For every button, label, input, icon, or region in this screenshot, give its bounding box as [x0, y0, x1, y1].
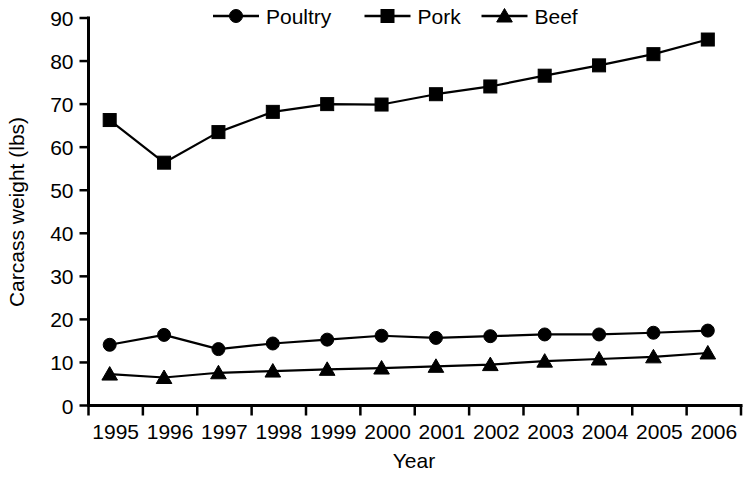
- y-tick-label: 70: [50, 93, 73, 116]
- circle-marker-icon: [375, 329, 388, 342]
- chart-background: [0, 0, 746, 480]
- y-tick-label: 30: [50, 265, 73, 288]
- x-tick-label: 2002: [473, 420, 520, 443]
- y-tick-label: 20: [50, 308, 73, 331]
- square-marker-icon: [375, 98, 388, 111]
- legend-label: Pork: [418, 5, 462, 28]
- x-tick-label: 2001: [419, 420, 466, 443]
- circle-marker-icon: [158, 328, 171, 341]
- circle-marker-icon: [701, 324, 714, 337]
- circle-marker-icon: [212, 343, 225, 356]
- circle-marker-icon: [230, 10, 243, 23]
- square-marker-icon: [266, 105, 279, 118]
- circle-marker-icon: [266, 337, 279, 350]
- x-tick-label: 1995: [92, 420, 139, 443]
- line-chart: PoultryPorkBeef 0102030405060708090 1995…: [0, 0, 746, 480]
- square-marker-icon: [647, 48, 660, 61]
- circle-marker-icon: [321, 333, 334, 346]
- x-axis-title: Year: [393, 449, 435, 472]
- chart-figure: PoultryPorkBeef 0102030405060708090 1995…: [0, 0, 746, 480]
- square-marker-icon: [158, 156, 171, 169]
- square-marker-icon: [538, 69, 551, 82]
- square-marker-icon: [593, 59, 606, 72]
- legend-label: Beef: [535, 5, 578, 28]
- x-tick-label: 2006: [690, 420, 737, 443]
- y-tick-label: 80: [50, 50, 73, 73]
- square-marker-icon: [103, 114, 116, 127]
- square-marker-icon: [701, 33, 714, 46]
- square-marker-icon: [381, 10, 394, 23]
- x-tick-label: 1999: [310, 420, 357, 443]
- square-marker-icon: [429, 88, 442, 101]
- y-axis-title: Carcass weight (lbs): [5, 117, 28, 307]
- circle-marker-icon: [429, 331, 442, 344]
- square-marker-icon: [212, 126, 225, 139]
- square-marker-icon: [484, 80, 497, 93]
- x-tick-label: 1997: [201, 420, 248, 443]
- circle-marker-icon: [538, 328, 551, 341]
- legend-label: Poultry: [266, 5, 332, 28]
- y-tick-label: 10: [50, 351, 73, 374]
- x-tick-label: 2000: [364, 420, 411, 443]
- x-tick-label: 1998: [255, 420, 302, 443]
- y-tick-label: 50: [50, 179, 73, 202]
- y-tick-label: 60: [50, 136, 73, 159]
- x-tick-label: 1996: [147, 420, 194, 443]
- y-tick-label: 40: [50, 222, 73, 245]
- x-tick-label: 2005: [636, 420, 683, 443]
- y-tick-label: 90: [50, 7, 73, 30]
- circle-marker-icon: [484, 330, 497, 343]
- y-tick-label: 0: [62, 395, 74, 418]
- circle-marker-icon: [103, 338, 116, 351]
- x-tick-label: 2003: [527, 420, 574, 443]
- circle-marker-icon: [593, 328, 606, 341]
- square-marker-icon: [321, 98, 334, 111]
- x-tick-label: 2004: [582, 420, 629, 443]
- circle-marker-icon: [647, 326, 660, 339]
